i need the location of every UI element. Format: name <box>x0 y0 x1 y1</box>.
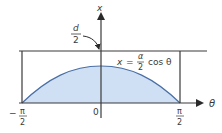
tick-left-denominator: 2 <box>20 118 25 127</box>
tick-left-numerator: π <box>20 107 25 116</box>
x-axis-label: x <box>96 3 103 13</box>
equation-equals: = <box>126 57 134 67</box>
equation-lhs: x <box>116 57 123 67</box>
tick-left-sign: − <box>9 108 17 118</box>
needle-integration-diagram: x θ d 2 x = α 2 cos θ − π 2 0 π 2 <box>0 0 222 133</box>
equation-denominator: 2 <box>138 63 143 72</box>
equation-numerator: α <box>138 52 144 61</box>
tick-origin: 0 <box>93 107 99 117</box>
pointer-arrow-icon <box>83 36 99 49</box>
equation-function: cos θ <box>148 57 172 67</box>
tick-right-numerator: π <box>177 107 182 116</box>
theta-axis-label: θ <box>209 98 215 109</box>
d-half-denominator: 2 <box>73 35 79 45</box>
d-half-numerator: d <box>73 23 79 33</box>
tick-right-denominator: 2 <box>177 118 182 127</box>
